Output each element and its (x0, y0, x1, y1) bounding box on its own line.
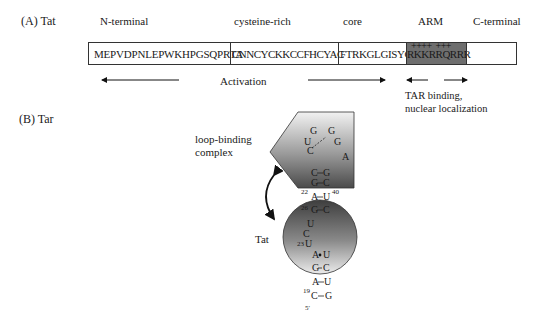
position-22: 22 (301, 188, 308, 196)
stem-bottom-1-left: A (312, 249, 319, 260)
stem-upper-2-left: G (311, 177, 318, 188)
stem-bottom-4-left: C (311, 290, 318, 301)
tar-binding-label: TAR binding, (405, 90, 463, 101)
stem-upper-2-right: C (323, 177, 330, 188)
tat-label: Tat (255, 233, 269, 245)
panel-b-label: (B) Tar (19, 112, 54, 127)
stem-lower-2-right: C (323, 204, 330, 215)
activation-label: Activation (220, 75, 266, 87)
stem-lower-1-right: U (323, 191, 330, 202)
complex-label: complex (195, 146, 233, 158)
stem-bottom-2-right: C (323, 262, 330, 273)
position-19: 19 (303, 287, 310, 295)
loop-nt-g1: G (310, 125, 317, 136)
position-40: 40 (332, 188, 339, 196)
loop-nt-g3: G (334, 136, 341, 147)
nuclear-localization-label: nuclear localization (405, 103, 488, 114)
position-26: 26 (301, 204, 308, 212)
stem-bottom-3-right: U (324, 276, 331, 287)
loop-nt-c: C (307, 145, 314, 156)
stem-bottom-4-right: G (325, 290, 332, 301)
stem-bottom-2-left: G (312, 262, 319, 273)
interaction-arrow (266, 175, 274, 219)
stem-lower-1-left: A (311, 191, 318, 202)
diagram-arrows (0, 0, 535, 322)
stem-lower-2-left: G (311, 204, 318, 215)
loop-nt-g2: G (328, 125, 335, 136)
stem-bottom-3-left: A (312, 276, 319, 287)
five-prime-end: 5′ (305, 304, 310, 312)
bulge-u2: U (305, 238, 312, 249)
tat-circle (283, 200, 357, 274)
position-23: 23 (297, 240, 304, 248)
stem-bottom-1-right: U (323, 249, 330, 260)
loop-nt-a: A (342, 151, 349, 162)
loop-binding-label: loop-binding (195, 133, 252, 145)
